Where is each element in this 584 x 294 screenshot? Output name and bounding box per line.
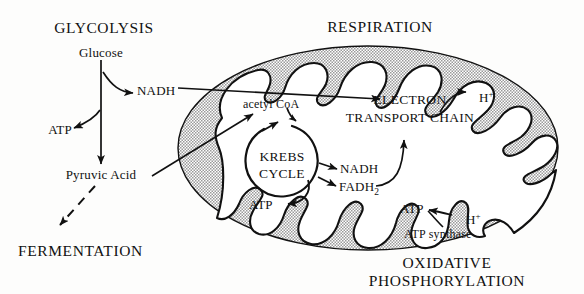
proton-base: H	[479, 90, 489, 105]
etc-label-line1: ELECTRON	[374, 93, 447, 107]
krebs-cycle-label-line1: KREBS	[259, 150, 304, 164]
glycolysis-heading: GLYCOLYSIS	[54, 20, 153, 36]
diagram-canvas: GLYCOLYSIS RESPIRATION Glucose NADH ATP …	[0, 0, 584, 294]
proton-label-etc: H+	[479, 91, 494, 104]
glycolysis-atp-label: ATP	[48, 123, 72, 136]
pyruvic-acid-label: Pyruvic Acid	[66, 168, 137, 181]
glycolysis-pathway-arrows	[60, 60, 133, 225]
acetyl-coa-label: acetyl CoA	[243, 98, 299, 110]
atp-synthase-label: ATP synthase	[404, 228, 472, 240]
synthase-atp-label: ATP	[400, 202, 424, 215]
cytosolic-nadh-label: NADH	[137, 84, 175, 97]
fermentation-heading: FERMENTATION	[18, 243, 143, 259]
glucose-label: Glucose	[79, 46, 123, 59]
respiration-heading: RESPIRATION	[327, 19, 433, 35]
glycolysis-atp-arrow	[74, 110, 100, 128]
proton-superscript-2: +	[476, 211, 481, 221]
krebs-atp-label: ATP	[249, 198, 273, 211]
fadh2-base: FADH	[339, 179, 374, 194]
mitochondrion-body	[178, 46, 558, 250]
pyruvate-to-fermentation-arrow	[60, 186, 95, 225]
matrix-nadh-label: NADH	[340, 162, 378, 175]
glucose-to-nadh-arrow	[103, 72, 133, 93]
proton-base-2: H	[466, 212, 476, 227]
fadh2-subscript: 2	[374, 187, 379, 197]
proton-label-synthase: H+	[466, 213, 481, 226]
proton-superscript: +	[489, 89, 494, 99]
fadh2-label: FADH2	[339, 180, 379, 193]
oxidative-heading-line1: OXIDATIVE	[403, 255, 492, 271]
etc-label-line2: TRANSPORT CHAIN	[346, 111, 474, 125]
krebs-cycle-label-line2: CYCLE	[259, 167, 305, 181]
oxidative-heading-line2: PHOSPHORYLATION	[369, 273, 525, 289]
